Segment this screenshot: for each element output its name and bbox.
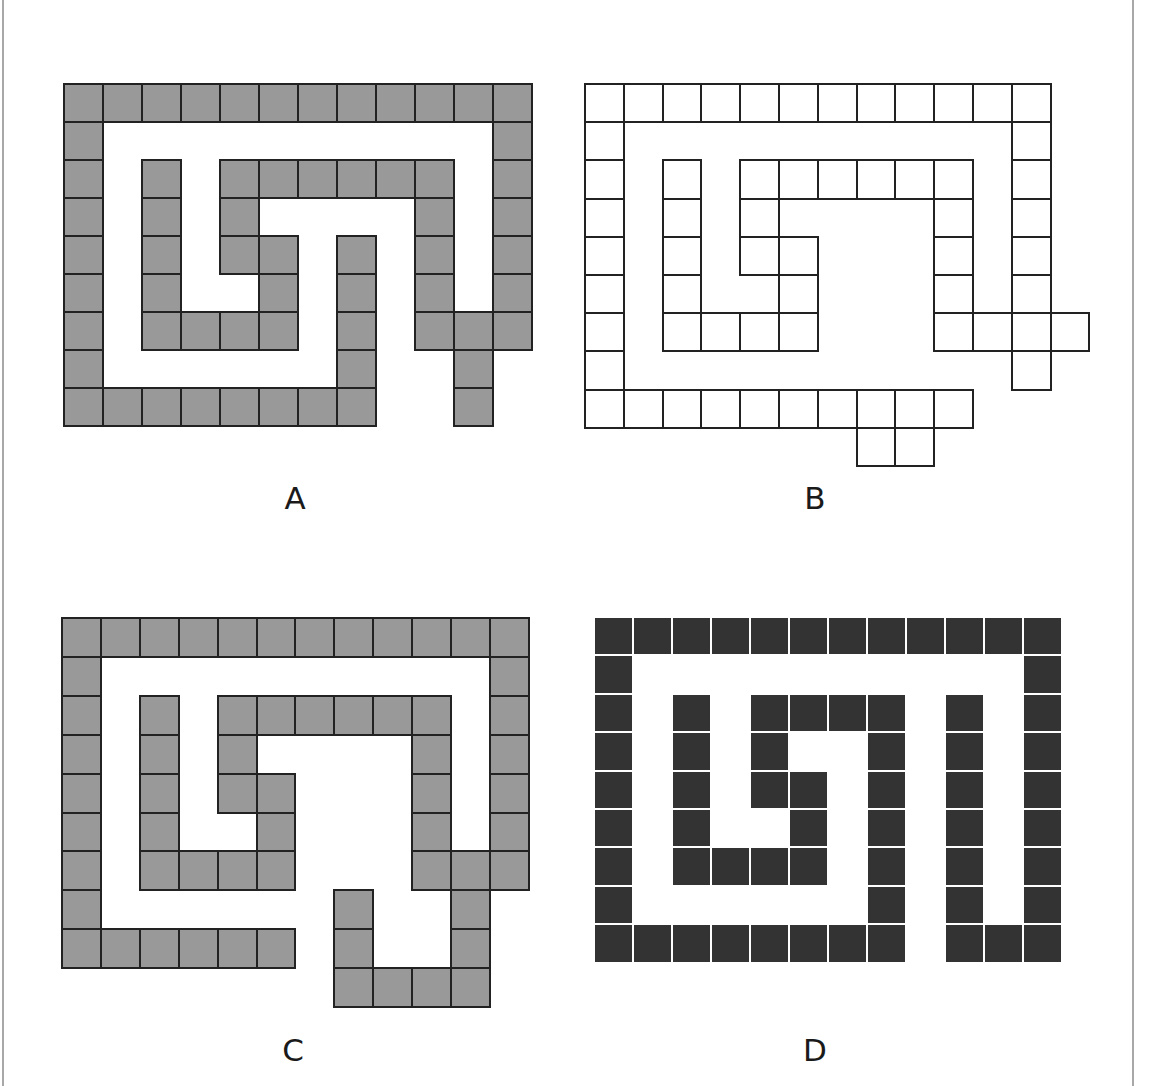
grid-cell [1023,809,1062,847]
grid-cell [933,274,974,314]
grid-cell [1050,312,1090,352]
grid-cell [139,812,180,852]
grid-cell [711,617,750,655]
grid-cell [219,311,260,351]
grid-cell [894,427,935,467]
grid-cell [584,236,625,276]
grid-cell [414,83,455,123]
grid-cell [139,773,180,814]
grid-cell [623,389,664,429]
grid-cell [414,235,455,275]
grid-cell [489,617,530,658]
grid-cell [450,850,491,891]
grid-cell [258,273,299,313]
grid-cell [594,924,633,963]
grid-cell [1023,886,1062,924]
grid-cell [333,967,374,1008]
grid-cell [256,617,296,658]
frame-right-border [1132,0,1134,1086]
grid-cell [867,847,906,886]
grid-cell [817,83,858,123]
figure-b-label: B [804,483,825,514]
grid-cell [492,121,533,161]
grid-cell [711,847,750,886]
frame-left-border [2,0,4,1086]
grid-cell [217,695,258,736]
grid-cell [1023,732,1062,771]
grid-cell [102,83,143,123]
grid-cell [945,886,984,924]
grid-cell [100,617,141,658]
grid-cell [894,389,935,429]
grid-cell [750,847,789,886]
grid-cell [333,889,374,930]
grid-cell [411,967,452,1008]
grid-cell [933,389,974,429]
grid-cell [180,311,221,351]
grid-cell [662,312,702,352]
grid-cell [256,695,296,736]
grid-cell [867,809,906,847]
grid-cell [294,617,335,658]
grid-cell [1023,694,1062,732]
grid-cell [217,773,258,814]
grid-cell [945,771,984,809]
grid-cell [623,83,664,123]
grid-cell [180,387,221,427]
grid-cell [450,889,491,930]
grid-cell [972,312,1013,352]
grid-cell [594,809,633,847]
grid-cell [594,617,633,655]
grid-cell [411,695,452,736]
grid-cell [256,812,296,852]
grid-cell [778,159,819,200]
grid-cell [1011,83,1052,123]
grid-cell [61,812,102,852]
grid-cell [867,886,906,924]
grid-cell [258,83,299,123]
grid-cell [778,274,819,314]
grid-cell [414,197,455,237]
grid-cell [778,389,819,429]
grid-cell [778,83,819,123]
grid-cell [258,235,299,275]
grid-cell [141,387,182,427]
grid-cell [856,159,896,200]
grid-cell [63,159,104,199]
grid-cell [414,311,455,351]
grid-cell [219,159,260,199]
grid-cell [867,771,906,809]
grid-cell [739,159,780,200]
grid-cell [594,655,633,694]
grid-cell [256,928,296,969]
grid-cell [411,734,452,775]
grid-cell [662,274,702,314]
grid-cell [789,617,828,655]
grid-cell [789,771,828,809]
grid-cell [933,159,974,200]
grid-cell [294,695,335,736]
grid-cell [336,235,377,275]
grid-cell [336,311,377,351]
grid-cell [492,197,533,237]
grid-cell [219,83,260,123]
grid-cell [1023,617,1062,655]
grid-cell [297,159,338,199]
grid-cell [662,159,702,200]
grid-cell [489,773,530,814]
grid-cell [492,273,533,313]
grid-cell [217,617,258,658]
grid-cell [828,924,867,963]
grid-cell [662,236,702,276]
grid-cell [867,694,906,732]
grid-cell [584,274,625,314]
grid-cell [139,695,180,736]
grid-cell [258,311,299,351]
grid-cell [61,656,102,697]
grid-cell [789,847,828,886]
grid-cell [945,847,984,886]
grid-cell [219,197,260,237]
grid-cell [594,886,633,924]
figure-a-label: A [284,483,305,514]
grid-cell [984,617,1023,655]
